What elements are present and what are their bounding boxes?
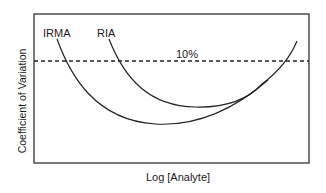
precision-profile-chart: IRMA RIA 10% Coefficient of Variation Lo… — [0, 0, 326, 193]
y-axis-label: Coefficient of Variation — [16, 49, 28, 154]
threshold-label: 10% — [176, 48, 198, 60]
ria-label: RIA — [97, 27, 116, 39]
irma-label: IRMA — [43, 27, 71, 39]
plot-frame — [34, 14, 309, 163]
irma-curve — [57, 39, 268, 124]
x-axis-label: Log [Analyte] — [146, 171, 210, 183]
ria-curve — [109, 39, 297, 107]
